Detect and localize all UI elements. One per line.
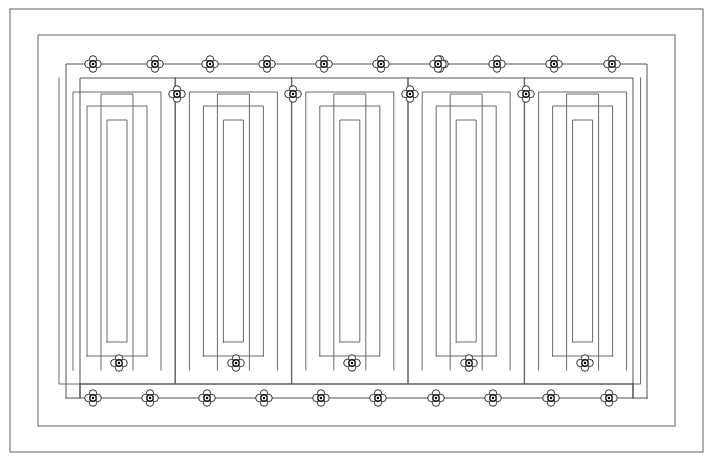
drawing-root: [0, 0, 713, 461]
serpentine-coil-drawing: [0, 0, 713, 461]
